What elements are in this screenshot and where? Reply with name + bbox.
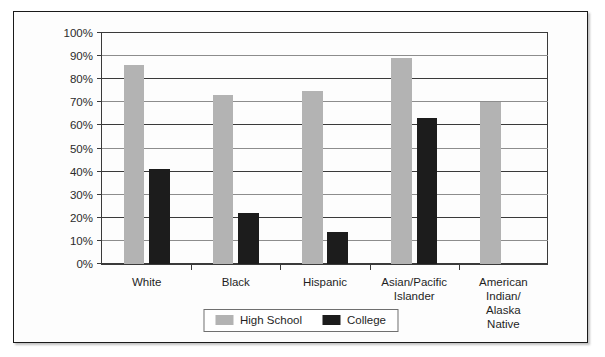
bar-college xyxy=(149,169,170,264)
bar-high-school xyxy=(391,58,412,264)
y-tick-label: 80% xyxy=(70,73,93,85)
y-tick-60 xyxy=(97,124,102,125)
y-tick-50 xyxy=(97,148,102,149)
bar-high-school xyxy=(302,91,323,264)
x-tick xyxy=(370,264,371,270)
legend-label-hs: High School xyxy=(240,314,302,326)
bar-high-school xyxy=(213,95,234,264)
y-tick-20 xyxy=(97,217,102,218)
chart-frame: 100%90%80%70%60%50%40%30%20%10%0% WhiteB… xyxy=(13,11,588,343)
bar-college xyxy=(327,232,348,264)
y-tick-label: 10% xyxy=(70,235,93,247)
category-label-2: Hispanic xyxy=(303,275,347,289)
bar-high-school xyxy=(480,102,501,264)
y-tick-100 xyxy=(97,32,102,33)
category-label-4: American Indian/ Alaska Native xyxy=(479,275,528,331)
gridline-90 xyxy=(102,55,548,56)
gridline-80 xyxy=(102,78,548,79)
category-label-3: Asian/Pacific Islander xyxy=(381,275,447,303)
bar-chart: 100%90%80%70%60%50%40%30%20%10%0% WhiteB… xyxy=(14,12,587,342)
y-tick-label: 40% xyxy=(70,166,93,178)
y-axis-line xyxy=(101,33,102,264)
y-tick-70 xyxy=(97,101,102,102)
y-tick-label: 20% xyxy=(70,212,93,224)
plot-area: 100%90%80%70%60%50%40%30%20%10%0% WhiteB… xyxy=(102,33,548,264)
legend-item-college[interactable]: College xyxy=(322,314,386,326)
y-tick-label: 50% xyxy=(70,143,93,155)
legend-swatch-hs xyxy=(215,315,233,325)
legend-label-college: College xyxy=(347,314,386,326)
x-tick xyxy=(280,264,281,270)
y-tick-label: 30% xyxy=(70,189,93,201)
gridline-100 xyxy=(102,32,548,33)
legend-item-hs[interactable]: High School xyxy=(215,314,302,326)
y-tick-label: 100% xyxy=(64,27,93,39)
y-tick-label: 60% xyxy=(70,119,93,131)
x-tick xyxy=(459,264,460,270)
y-tick-label: 0% xyxy=(76,258,93,270)
y-tick-30 xyxy=(97,194,102,195)
y-tick-0 xyxy=(97,263,102,264)
legend-swatch-college xyxy=(322,315,340,325)
y-tick-80 xyxy=(97,78,102,79)
y-tick-10 xyxy=(97,240,102,241)
bar-college xyxy=(238,213,259,264)
bar-college xyxy=(417,118,438,264)
y-tick-label: 70% xyxy=(70,96,93,108)
y-tick-40 xyxy=(97,171,102,172)
category-label-0: White xyxy=(132,275,161,289)
category-label-1: Black xyxy=(222,275,250,289)
bar-high-school xyxy=(124,65,145,264)
y-tick-90 xyxy=(97,55,102,56)
chart-legend: High SchoolCollege xyxy=(203,309,398,332)
plot-right-border xyxy=(547,33,548,264)
x-tick xyxy=(191,264,192,270)
y-tick-label: 90% xyxy=(70,50,93,62)
x-axis-line xyxy=(101,264,548,265)
